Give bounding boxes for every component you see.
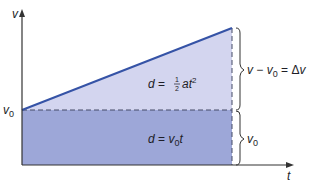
x-axis-label: t (287, 169, 291, 183)
fraction-denominator: 2 (175, 85, 179, 92)
triangle-area-formula: d = (148, 77, 165, 91)
y-axis-arrow-icon (19, 9, 25, 17)
y-axis-label: v (12, 7, 19, 21)
upper-brace-icon (236, 28, 244, 110)
x-axis-arrow-icon (286, 162, 294, 168)
v0-brace-label: v0 (247, 132, 258, 148)
rectangle-region (22, 110, 232, 165)
velocity-time-diagram: v t v0 d = 1 2 at2 d = v0t v − v0 = Δv v… (0, 0, 311, 188)
lower-brace-icon (236, 111, 244, 165)
v0-axis-label: v0 (3, 103, 14, 119)
fraction-numerator: 1 (175, 76, 179, 83)
delta-v-label: v − v0 = Δv (247, 63, 306, 79)
